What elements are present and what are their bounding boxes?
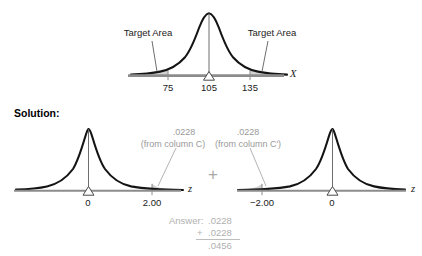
right-tick-label-minus2: −2.00	[250, 198, 274, 208]
plus-operator: +	[208, 166, 218, 183]
answer-operator: +	[197, 228, 203, 238]
left-annotation-value: .0228	[173, 128, 196, 137]
top-axis-label-x: X	[290, 69, 296, 80]
left-annotation-leader	[158, 148, 176, 186]
figure-stage: Target Area Target Area 75 105 135 X Sol…	[0, 0, 422, 256]
left-tick-label-0: 0	[85, 198, 90, 208]
top-tick-label-135: 135	[242, 83, 258, 93]
right-axis-label-z: z	[411, 184, 415, 195]
left-axis-label-z: z	[188, 184, 192, 195]
right-annotation-value: .0228	[237, 128, 260, 137]
right-annotation-leader	[250, 148, 266, 186]
solution-label: Solution:	[14, 108, 60, 119]
top-right-target-area-label: Target Area	[248, 28, 297, 38]
top-tick-label-75: 75	[163, 83, 174, 93]
right-tick-label-0: 0	[329, 198, 334, 208]
top-left-target-area-label: Target Area	[124, 28, 173, 38]
top-right-callout-leader	[262, 41, 268, 72]
top-chart-group	[128, 13, 287, 80]
answer-total: .0456	[208, 241, 232, 251]
top-left-callout-leader	[152, 41, 157, 72]
left-tick-label-2: 2.00	[143, 198, 162, 208]
answer-label: Answer:	[169, 216, 203, 226]
answer-term-1: .0228	[208, 216, 232, 226]
left-annotation-source: (from column C)	[141, 140, 206, 149]
top-tick-label-105: 105	[201, 83, 217, 93]
right-annotation-source: (from column C')	[215, 140, 281, 149]
answer-term-2: .0228	[208, 228, 232, 238]
